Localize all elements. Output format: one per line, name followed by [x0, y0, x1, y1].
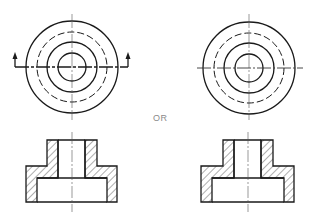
hatched-wall-right — [85, 140, 117, 202]
or-separator-label: OR — [153, 113, 168, 123]
right-section-view — [201, 132, 294, 212]
hatched-wall-left — [201, 140, 234, 202]
left-section-view — [26, 132, 117, 212]
hatched-wall-left — [26, 140, 58, 202]
cutting-plane-right-arrow-icon — [126, 52, 131, 59]
hatched-wall-right — [261, 140, 294, 202]
technical-drawing — [0, 0, 315, 220]
right-top-view — [197, 14, 303, 120]
cutting-plane-left-arrow-icon — [13, 52, 18, 59]
left-top-view — [13, 14, 131, 120]
